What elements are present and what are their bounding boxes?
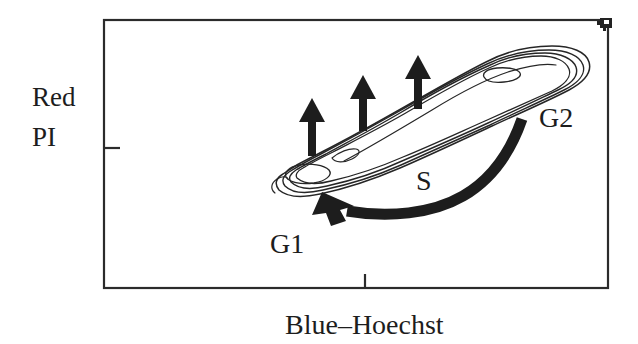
label-g2: G2 bbox=[539, 102, 573, 133]
cell-cycle-contour-figure: Red PI Blue–Hoechst G1 S G2 bbox=[0, 0, 638, 344]
y-axis-label-line2: PI bbox=[32, 122, 56, 152]
contour-inner-ridge bbox=[344, 64, 556, 161]
contour-level-3 bbox=[290, 53, 577, 188]
up-arrow-1 bbox=[299, 98, 325, 156]
up-arrow-2 bbox=[350, 75, 376, 131]
s-phase-progression-arrows bbox=[299, 55, 431, 156]
contour-level-4 bbox=[296, 56, 569, 183]
figure-root: Red PI Blue–Hoechst G1 S G2 bbox=[0, 0, 638, 344]
label-g1: G1 bbox=[270, 228, 304, 259]
y-axis-label-line1: Red bbox=[32, 82, 76, 112]
x-axis-label: Blue–Hoechst bbox=[285, 309, 444, 340]
label-s: S bbox=[416, 165, 432, 196]
